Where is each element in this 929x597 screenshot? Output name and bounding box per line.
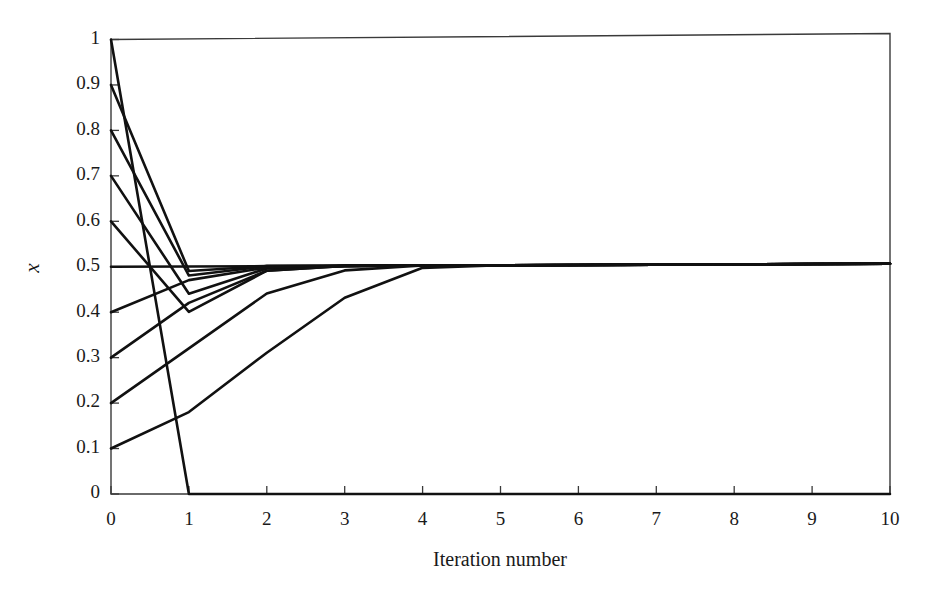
data-series-line <box>111 176 890 294</box>
x-tick-label: 3 <box>340 508 350 529</box>
y-tick-label: 0.4 <box>76 300 100 321</box>
x-tick-label: 7 <box>652 508 662 529</box>
x-axis-title: Iteration number <box>433 548 567 570</box>
x-tick-label: 10 <box>881 508 900 529</box>
y-tick-label: 0.3 <box>76 345 100 366</box>
y-tick-label: 0.6 <box>76 209 100 230</box>
y-tick-label: 0.7 <box>76 163 100 184</box>
line-chart: 00.10.20.30.40.50.60.70.80.91 0123456789… <box>0 0 929 597</box>
x-tick-label: 1 <box>184 508 194 529</box>
data-series-line <box>111 130 890 275</box>
x-tick-label: 2 <box>262 508 272 529</box>
y-axis-title: x <box>20 263 44 274</box>
y-axis-tick-labels: 00.10.20.30.40.50.60.70.80.91 <box>76 27 100 503</box>
x-tick-label: 5 <box>496 508 506 529</box>
x-tick-label: 8 <box>729 508 739 529</box>
y-tick-label: 0.1 <box>76 436 100 457</box>
y-tick-label: 0.9 <box>76 72 100 93</box>
y-tick-label: 0 <box>91 481 101 502</box>
x-tick-label: 4 <box>418 508 428 529</box>
y-tick-label: 1 <box>91 27 101 48</box>
data-series-line <box>111 85 890 271</box>
y-tick-label: 0.8 <box>76 118 100 139</box>
data-series-line <box>111 264 890 358</box>
x-tick-label: 9 <box>807 508 817 529</box>
x-tick-label: 0 <box>106 508 116 529</box>
y-tick-label: 0.2 <box>76 390 100 411</box>
chart-figure: 00.10.20.30.40.50.60.70.80.91 0123456789… <box>0 0 929 597</box>
y-tick-label: 0.5 <box>76 254 100 275</box>
x-tick-label: 6 <box>574 508 584 529</box>
data-series-group <box>111 40 890 495</box>
x-axis-tick-labels: 012345678910 <box>106 508 899 529</box>
